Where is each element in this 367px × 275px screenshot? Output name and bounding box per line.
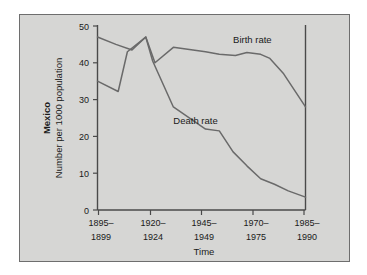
- x-tick-label-1-line2: 1924: [143, 232, 163, 242]
- figure-root: 50 40 30 20 10 0 1895– 1899 1920– 1924 1…: [0, 0, 367, 275]
- y-tick-label-50: 50: [79, 22, 89, 32]
- x-tick-label-2-line1: 1945–: [191, 218, 216, 228]
- x-tick-label-1-line1: 1920–: [140, 218, 165, 228]
- x-tick-label-0-line1: 1895–: [88, 218, 113, 228]
- y-tick-label-0: 0: [84, 206, 89, 216]
- x-tick-label-0-line2: 1899: [91, 232, 111, 242]
- y-tick-label-20: 20: [79, 132, 89, 142]
- series-line-birth-rate: [98, 37, 306, 107]
- y-tick-label-10: 10: [79, 169, 89, 179]
- series-label-death-rate: Death rate: [173, 115, 217, 126]
- x-tick-label-2-line2: 1949: [194, 232, 214, 242]
- x-tick-marks: [99, 210, 305, 215]
- series-label-birth-rate: Birth rate: [233, 34, 272, 45]
- x-tick-label-3-line2: 1975: [246, 232, 266, 242]
- x-tick-label-4-line2: 1990: [297, 232, 317, 242]
- y-tick-labels: 50 40 30 20 10 0: [79, 22, 89, 216]
- x-axis-title: Time: [194, 246, 215, 257]
- x-tick-labels: 1895– 1899 1920– 1924 1945– 1949 1970– 1…: [88, 218, 319, 242]
- y-tick-label-40: 40: [79, 58, 89, 68]
- region-label: Mexico: [41, 102, 52, 134]
- line-chart: 50 40 30 20 10 0 1895– 1899 1920– 1924 1…: [0, 0, 367, 275]
- y-tick-label-30: 30: [79, 95, 89, 105]
- x-tick-label-4-line1: 1985–: [294, 218, 319, 228]
- x-tick-label-3-line1: 1970–: [243, 218, 268, 228]
- y-axis-title: Number per 1000 population: [53, 58, 64, 178]
